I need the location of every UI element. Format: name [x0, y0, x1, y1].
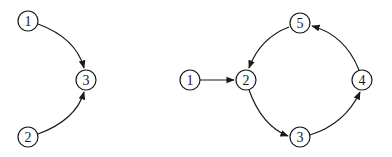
right-graph: 1 2 5 4 3: [180, 13, 372, 147]
svg-text:1: 1: [187, 73, 194, 88]
svg-text:3: 3: [297, 130, 304, 145]
diagram-canvas: 1 3 2 1 2 5 4: [0, 0, 392, 157]
node-2: 2: [236, 70, 256, 90]
svg-text:4: 4: [359, 73, 366, 88]
svg-text:1: 1: [25, 14, 32, 29]
node-3: 3: [76, 70, 96, 90]
node-1: 1: [180, 70, 200, 90]
edge-2-to-3: [249, 90, 288, 136]
left-graph: 1 3 2: [18, 11, 96, 147]
svg-text:3: 3: [83, 73, 90, 88]
node-2: 2: [18, 127, 38, 147]
node-3: 3: [290, 127, 310, 147]
edge-1-to-3: [38, 24, 84, 68]
edge-4-to-5: [312, 26, 359, 70]
svg-text:5: 5: [297, 16, 304, 31]
svg-text:2: 2: [25, 130, 32, 145]
node-1: 1: [18, 11, 38, 31]
node-4: 4: [352, 70, 372, 90]
edge-2-to-3: [38, 92, 84, 134]
edge-3-to-4: [310, 92, 360, 135]
edge-5-to-2: [249, 27, 289, 68]
svg-text:2: 2: [243, 73, 250, 88]
node-5: 5: [290, 13, 310, 33]
